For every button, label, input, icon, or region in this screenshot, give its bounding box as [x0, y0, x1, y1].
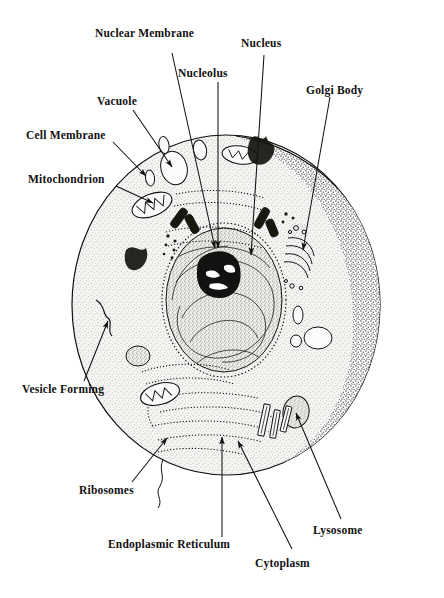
- label-golgi-body: Golgi Body: [306, 85, 363, 97]
- label-vacuole: Vacuole: [97, 96, 137, 108]
- label-endoplasmic-reticulum: Endoplasmic Reticulum: [108, 539, 230, 551]
- label-nucleus: Nucleus: [241, 38, 281, 50]
- cell-illustration: [0, 0, 444, 598]
- nucleolus-body: [197, 251, 241, 298]
- label-vesicle-forming: Vesicle Forming: [22, 384, 104, 396]
- label-cell-membrane: Cell Membrane: [26, 130, 106, 142]
- label-mitochondrion: Mitochondrion: [28, 174, 105, 186]
- label-lysosome: Lysosome: [313, 525, 363, 537]
- label-cytoplasm: Cytoplasm: [255, 558, 310, 570]
- leader-cell-membrane: [113, 142, 146, 176]
- label-nucleolus: Nucleolus: [178, 68, 228, 80]
- cell-diagram: Nuclear Membrane Nucleus Nucleolus Golgi…: [0, 0, 444, 598]
- label-ribosomes: Ribosomes: [79, 485, 134, 497]
- label-nuclear-membrane: Nuclear Membrane: [95, 28, 194, 40]
